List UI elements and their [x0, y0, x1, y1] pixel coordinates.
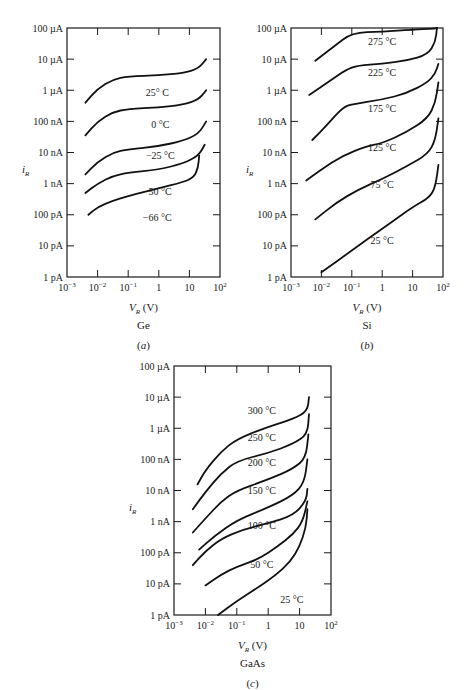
- iv-curve: [306, 83, 438, 181]
- y-tick-label: 10 pA: [145, 578, 171, 589]
- y-tick-label: 1 µA: [43, 85, 64, 96]
- plot-frame: [67, 28, 220, 277]
- curve-temperature-label: 200 °C: [248, 457, 276, 468]
- curve-temperature-label: 25 °C: [371, 235, 394, 246]
- curve-temperature-label: 225 °C: [368, 67, 396, 78]
- curve-temperature-label: 25° C: [146, 87, 169, 98]
- y-tick-label: 1 µA: [267, 85, 288, 96]
- curve-temperature-label: 0 °C: [151, 119, 169, 130]
- panel-caption: (b): [361, 339, 374, 352]
- y-axis-title: iR: [246, 163, 254, 178]
- y-axis-title: iR: [129, 501, 137, 516]
- y-tick-label: 10 nA: [145, 485, 171, 496]
- curve-temperature-label: 150 °C: [248, 485, 276, 496]
- y-tick-label: 100 pA: [33, 209, 64, 220]
- y-tick-label: 10 pA: [262, 240, 288, 251]
- y-tick-label: 1 nA: [150, 516, 171, 527]
- y-tick-label: 1 µA: [150, 423, 171, 434]
- y-tick-label: 1 pA: [150, 610, 171, 621]
- y-tick-label: 1 pA: [43, 272, 64, 283]
- figure-canvas: 10−310−210−11101021 pA10 pA100 pA1 nA10 …: [0, 0, 467, 690]
- x-tick-label: 10−3: [165, 619, 183, 631]
- curve-temperature-label: 175 °C: [368, 103, 396, 114]
- curve-temperature-label: 50 °C: [250, 559, 273, 570]
- x-tick-label: 10−2: [197, 619, 215, 631]
- y-tick-label: 10 nA: [262, 147, 288, 158]
- curve-temperature-label: 250 °C: [248, 432, 276, 443]
- x-tick-label: 10: [295, 620, 305, 631]
- iv-curve: [85, 121, 206, 174]
- y-tick-label: 100 µA: [257, 23, 288, 34]
- y-tick-label: 10 µA: [145, 392, 171, 403]
- y-tick-label: 100 nA: [33, 116, 64, 127]
- material-label: Si: [362, 319, 371, 331]
- curve-temperature-label: −66 °C: [143, 212, 172, 223]
- curve-temperature-label: 300 °C: [248, 405, 276, 416]
- y-tick-label: 100 µA: [140, 361, 171, 372]
- x-tick-label: 10−1: [228, 619, 246, 631]
- y-tick-label: 10 nA: [38, 147, 64, 158]
- x-tick-label: 10: [408, 282, 418, 293]
- panel-si: 10−310−210−11101021 pA10 pA100 pA1 nA10 …: [246, 23, 450, 353]
- x-tick-label: 10−3: [58, 281, 76, 293]
- curve-temperature-label: 125 °C: [368, 142, 396, 153]
- y-tick-label: 100 pA: [257, 209, 288, 220]
- x-axis-title: VR (V): [238, 639, 267, 654]
- x-tick-label: 10−3: [282, 281, 300, 293]
- y-tick-label: 100 nA: [140, 454, 171, 465]
- x-axis-title: VR (V): [129, 301, 158, 316]
- panel-ge: 10−310−210−11101021 pA10 pA100 pA1 nA10 …: [22, 23, 227, 353]
- x-tick-label: 10−2: [89, 281, 107, 293]
- curve-temperature-label: 75 °C: [371, 179, 394, 190]
- x-tick-label: 102: [436, 281, 450, 293]
- x-tick-label: 10: [184, 282, 194, 293]
- y-tick-label: 10 µA: [38, 54, 64, 65]
- y-tick-label: 1 nA: [43, 178, 64, 189]
- panel-gaas: 10−310−210−11101021 pA10 pA100 pA1 nA10 …: [129, 361, 338, 690]
- iv-curve: [193, 435, 309, 533]
- y-tick-label: 10 µA: [262, 54, 288, 65]
- x-tick-label: 102: [324, 619, 338, 631]
- panel-caption: (a): [137, 339, 150, 352]
- x-tick-label: 10−1: [343, 281, 361, 293]
- x-tick-label: 10−1: [119, 281, 137, 293]
- x-tick-label: 102: [213, 281, 227, 293]
- x-tick-label: 1: [380, 282, 385, 293]
- y-tick-label: 10 pA: [38, 240, 64, 251]
- y-tick-label: 1 nA: [267, 178, 288, 189]
- curve-temperature-label: 25 °C: [280, 594, 303, 605]
- y-tick-label: 100 nA: [257, 116, 288, 127]
- y-axis-title: iR: [22, 163, 30, 178]
- panel-caption: (c): [246, 677, 259, 690]
- iv-curve: [315, 118, 438, 219]
- y-tick-label: 1 pA: [267, 272, 288, 283]
- curve-temperature-label: 100 °C: [248, 520, 276, 531]
- curve-temperature-label: 275 °C: [368, 36, 396, 47]
- material-label: Ge: [137, 319, 150, 331]
- x-tick-label: 1: [156, 282, 161, 293]
- curve-temperature-label: −25 °C: [146, 150, 175, 161]
- x-axis-title: VR (V): [352, 301, 381, 316]
- y-tick-label: 100 µA: [33, 23, 64, 34]
- y-tick-label: 100 pA: [140, 547, 171, 558]
- x-tick-label: 1: [266, 620, 271, 631]
- x-tick-label: 10−2: [313, 281, 331, 293]
- material-label: GaAs: [240, 657, 265, 669]
